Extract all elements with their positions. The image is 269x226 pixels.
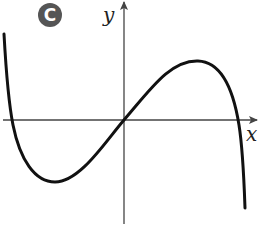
label-badge: C	[38, 3, 62, 27]
y-axis-label: y	[102, 3, 115, 27]
graph: C x y	[0, 0, 269, 226]
badge-letter: C	[44, 5, 56, 25]
x-axis-label: x	[246, 122, 257, 146]
